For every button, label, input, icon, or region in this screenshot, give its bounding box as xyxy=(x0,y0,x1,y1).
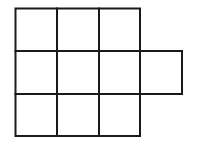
extra-square xyxy=(140,51,182,94)
grid-diagram xyxy=(0,0,199,142)
grid-outline xyxy=(16,9,141,137)
